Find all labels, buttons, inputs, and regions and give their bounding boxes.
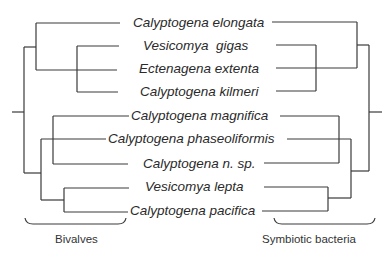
taxon-label: Vesicomya lepta [145,179,244,195]
taxon-label: Calyptogena kilmeri [140,84,259,100]
cophylogeny-diagram: Calyptogena elongata Vesicomya gigas Ect… [0,0,390,260]
taxon-label: Vesicomya gigas [143,38,248,54]
bacteria-bracket [274,218,375,224]
taxon-label: Ectenagena extenta [139,61,259,77]
taxon-label: Calyptogena elongata [133,15,264,31]
symbiotic-bacteria-label: Symbiotic bacteria [262,233,356,245]
taxon-label: Calyptogena phaseoliformis [108,131,275,147]
bivalve-tree [12,23,129,212]
taxon-label: Calyptogena pacifica [130,203,255,219]
taxon-label: Calyptogena magnifica [131,108,268,124]
taxon-label: Calyptogena n. sp. [143,156,256,172]
bivalves-bracket [25,218,126,224]
bacteria-tree [262,22,382,211]
bivalves-label: Bivalves [55,233,98,245]
